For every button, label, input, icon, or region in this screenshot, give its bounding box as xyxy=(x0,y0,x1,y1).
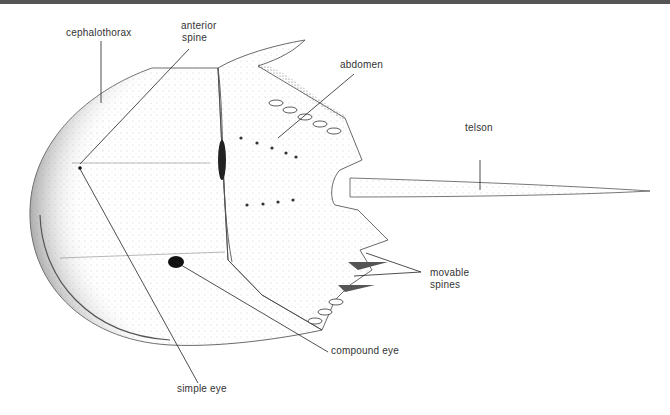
label-anterior-spine-line1: anterior xyxy=(181,20,217,32)
label-simple-eye: simple eye xyxy=(177,383,227,395)
label-abdomen: abdomen xyxy=(340,59,383,71)
label-cephalothorax: cephalothorax xyxy=(66,27,131,39)
label-telson: telson xyxy=(465,122,493,134)
label-anterior-spine-line2: spine xyxy=(182,32,207,44)
label-movable-spines-line1: movable xyxy=(430,267,469,279)
telson-shape xyxy=(350,178,650,197)
label-compound-eye: compound eye xyxy=(331,345,399,357)
label-movable-spines-line2: spines xyxy=(430,279,460,291)
